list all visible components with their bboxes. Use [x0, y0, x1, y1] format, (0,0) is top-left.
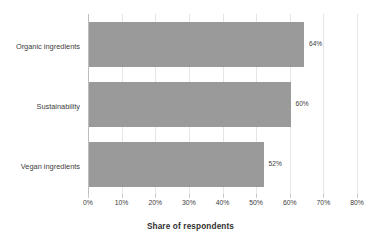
xtick-mark-30 [189, 194, 190, 198]
xtick-mark-80 [357, 194, 358, 198]
xtick-label-50: 50% [241, 199, 271, 206]
xtick-mark-40 [223, 194, 224, 198]
category-axis-labels: Organic ingredients Sustainability Vegan… [0, 14, 84, 194]
xtick-label-20: 20% [140, 199, 170, 206]
plot-area: 64% 60% 52% [88, 14, 357, 194]
bar-value-vegan-ingredients: 52% [269, 160, 282, 168]
xtick-mark-10 [122, 194, 123, 198]
xtick-label-60: 60% [275, 199, 305, 206]
value-axis-tick-labels: 0% 10% 20% 30% 40% 50% 60% 70% 80% [88, 199, 357, 213]
xtick-label-70: 70% [308, 199, 338, 206]
category-label-organic-ingredients: Organic ingredients [0, 42, 80, 51]
bar-value-sustainability: 60% [296, 100, 309, 108]
category-label-vegan-ingredients: Vegan ingredients [0, 162, 80, 171]
bar-organic-ingredients[interactable] [89, 22, 304, 67]
xtick-label-30: 30% [174, 199, 204, 206]
category-label-sustainability: Sustainability [0, 102, 80, 111]
xtick-mark-0 [88, 194, 89, 198]
bar-vegan-ingredients[interactable] [89, 142, 264, 187]
xtick-label-0: 0% [73, 199, 103, 206]
bar-value-organic-ingredients: 64% [309, 40, 322, 48]
xtick-label-40: 40% [208, 199, 238, 206]
xtick-mark-20 [155, 194, 156, 198]
bar-chart: Organic ingredients Sustainability Vegan… [0, 0, 381, 245]
xtick-label-10: 10% [107, 199, 137, 206]
bar-sustainability[interactable] [89, 82, 291, 127]
xtick-mark-60 [290, 194, 291, 198]
xtick-mark-50 [256, 194, 257, 198]
xtick-mark-70 [323, 194, 324, 198]
gridline-70 [323, 14, 324, 194]
xtick-label-80: 80% [342, 199, 372, 206]
gridline-80 [357, 14, 358, 194]
x-axis-title: Share of respondents [0, 222, 381, 231]
